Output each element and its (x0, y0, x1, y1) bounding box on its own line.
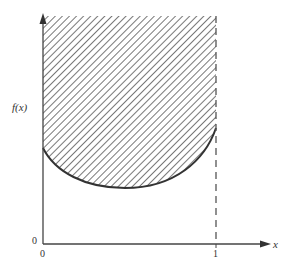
x-axis-label: x (272, 238, 278, 250)
x-axis-arrow-icon (260, 241, 271, 248)
hatched-region (43, 16, 216, 191)
y-axis-label: f(x) (12, 101, 28, 114)
x-tick-one-label: 1 (213, 248, 218, 259)
x-origin-label: 0 (40, 248, 45, 259)
y-origin-label: 0 (32, 235, 37, 246)
figure-canvas: f(x) x 0 0 1 (0, 0, 281, 273)
